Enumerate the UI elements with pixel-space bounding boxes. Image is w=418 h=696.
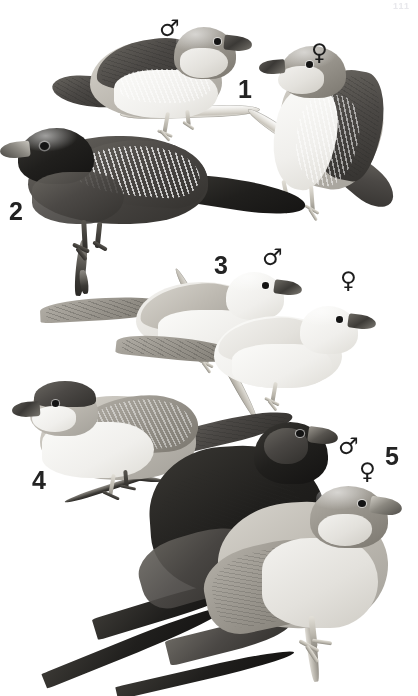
- fig-5-male-eye: [296, 430, 304, 437]
- species-number-4: 4: [32, 468, 45, 493]
- sex-symbol-female-1: ♀: [311, 41, 328, 64]
- species-number-2: 2: [9, 199, 22, 224]
- fig-3-female-eye: [336, 316, 343, 323]
- species-number-5: 5: [385, 444, 398, 469]
- species-number-3: 3: [214, 253, 227, 278]
- page-number-mark: 111: [393, 1, 410, 11]
- species-number-1: 1: [238, 77, 251, 102]
- sex-symbol-male-3: ♂: [262, 246, 283, 269]
- illustration-plate: 111: [0, 0, 418, 696]
- fig-4-eye: [52, 400, 59, 407]
- fig-1-male-eye: [214, 38, 221, 45]
- fig-5-female-bird: [112, 476, 412, 676]
- fig-5-female-eye: [358, 500, 366, 507]
- fig-2-eye: [40, 142, 49, 150]
- sex-symbol-male-1: ♂: [159, 17, 180, 40]
- fig-3-male-eye: [262, 282, 269, 289]
- fig-2-bird: [4, 116, 304, 246]
- sex-symbol-male-5: ♂: [338, 435, 359, 458]
- sex-symbol-female-5: ♀: [359, 460, 376, 483]
- sex-symbol-female-3: ♀: [340, 269, 357, 292]
